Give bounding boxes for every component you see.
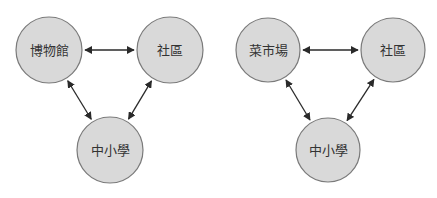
node-label: 博物館 xyxy=(30,43,69,58)
diagram-canvas: 博物館社區中小學 菜市場社區中小學 xyxy=(0,0,437,198)
node-museum: 博物館 xyxy=(16,17,82,83)
node-community: 社區 xyxy=(361,18,425,82)
right-relationship-diagram: 菜市場社區中小學 xyxy=(236,18,425,182)
node-label: 社區 xyxy=(157,43,183,58)
node-school: 中小學 xyxy=(77,117,143,183)
node-school: 中小學 xyxy=(296,118,360,182)
bidirectional-arrow-community-school xyxy=(129,81,152,119)
node-label: 社區 xyxy=(380,43,406,58)
left-relationship-diagram: 博物館社區中小學 xyxy=(16,17,203,183)
node-label: 中小學 xyxy=(309,143,348,158)
node-label: 中小學 xyxy=(91,143,130,158)
bidirectional-arrow-museum-school xyxy=(68,81,92,120)
node-label: 菜市場 xyxy=(249,43,288,58)
bidirectional-arrow-market-school xyxy=(286,80,310,120)
node-market: 菜市場 xyxy=(236,18,300,82)
node-community: 社區 xyxy=(137,17,203,83)
bidirectional-arrow-community-school xyxy=(347,79,374,120)
